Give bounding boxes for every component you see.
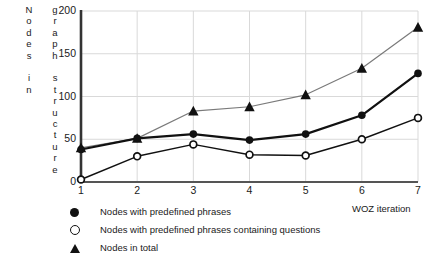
legend-open-circle-icon [70, 225, 80, 235]
legend-label: Nodes in total [100, 242, 158, 254]
y-tick-label: 100 [42, 91, 76, 102]
chart-legend: Nodes with predefined phrasesNodes with … [70, 203, 370, 257]
x-tick-label: 2 [126, 183, 148, 197]
data-point-filled-circle [246, 136, 254, 144]
legend-triangle-icon [70, 244, 80, 253]
data-point-open-circle [134, 153, 141, 160]
legend-marker [70, 239, 92, 257]
data-point-triangle [357, 63, 367, 73]
x-tick-label: 7 [407, 183, 429, 197]
y-tick-label: 200 [42, 5, 76, 16]
data-point-open-circle [302, 152, 309, 159]
data-point-open-circle [190, 141, 197, 148]
data-point-filled-circle [190, 130, 198, 138]
y-axis-title-letter: s [22, 50, 36, 61]
x-tick-label: 6 [351, 183, 373, 197]
data-point-filled-circle [133, 135, 141, 143]
data-point-open-circle [246, 151, 253, 158]
legend-label: Nodes with predefined phrases containing… [100, 224, 320, 236]
y-axis-title-letter: N [22, 4, 36, 15]
x-tick-label: 3 [182, 183, 204, 197]
y-axis-title-column-1: Nodes in [22, 4, 36, 95]
y-axis-title-letter: n [22, 84, 36, 95]
data-point-filled-circle [77, 146, 85, 154]
data-point-triangle [300, 90, 310, 100]
data-point-open-circle [358, 136, 365, 143]
data-point-filled-circle [302, 130, 310, 138]
y-axis-title-letter: o [22, 15, 36, 26]
legend-item: Nodes in total [70, 239, 370, 257]
data-point-filled-circle [358, 112, 366, 120]
x-tick-label: 1 [70, 183, 92, 197]
legend-marker [70, 203, 92, 221]
data-point-filled-circle [414, 70, 422, 78]
legend-filled-circle-icon [70, 208, 79, 217]
chart-figure: Nodes in graph structure 200150100500 12… [0, 0, 435, 265]
y-axis-tick-labels: 200150100500 [40, 0, 76, 200]
y-axis-title-letter: i [22, 72, 36, 83]
y-tick-label: 50 [42, 133, 76, 144]
data-point-open-circle [78, 176, 85, 183]
legend-label: Nodes with predefined phrases [100, 206, 231, 218]
data-point-open-circle [415, 114, 422, 121]
plot-area [81, 11, 418, 182]
x-axis-tick-labels: 1234567 [81, 183, 418, 199]
data-point-triangle [413, 22, 423, 32]
x-tick-label: 5 [295, 183, 317, 197]
legend-item: Nodes with predefined phrases containing… [70, 221, 370, 239]
legend-item: Nodes with predefined phrases [70, 203, 370, 221]
y-axis-title-letter: e [22, 38, 36, 49]
y-axis-title-letter: d [22, 27, 36, 38]
legend-marker [70, 221, 92, 239]
plot-svg [81, 11, 418, 182]
y-tick-label: 150 [42, 48, 76, 59]
x-tick-label: 4 [239, 183, 261, 197]
y-axis-title-letter [22, 61, 36, 72]
